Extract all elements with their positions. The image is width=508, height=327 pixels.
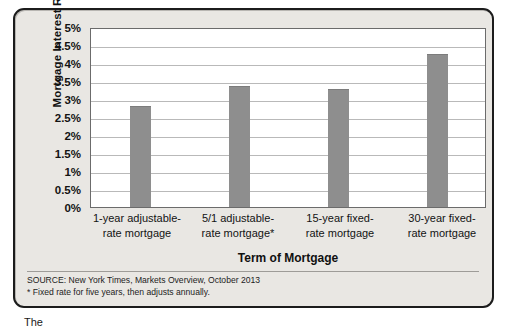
- y-tick-label: 2%: [64, 130, 81, 142]
- x-tick-label: 15-year fixed- rate mortgage: [286, 211, 394, 240]
- x-tick-label: 1-year adjustable- rate mortgage: [83, 211, 191, 240]
- figure-frame: Mortgage Interest Rate 5% 4.5% 4% 3.5% 3…: [13, 8, 494, 308]
- x-tick-label-line1: 30-year fixed-: [388, 211, 496, 226]
- x-axis-tick-labels: 1-year adjustable- rate mortgage 5/1 adj…: [90, 211, 486, 251]
- source-divider: [27, 271, 479, 272]
- y-tick-label: 4.5%: [55, 40, 81, 52]
- x-tick-label: 5/1 adjustable- rate mortgage*: [184, 211, 292, 240]
- x-tick-label-line1: 5/1 adjustable-: [184, 211, 292, 226]
- bar-15-year-fixed-rate-mortgage[interactable]: [328, 89, 349, 207]
- x-axis-title: Term of Mortgage: [90, 251, 486, 265]
- bars-layer: [91, 29, 485, 207]
- x-tick-label-line1: 15-year fixed-: [286, 211, 394, 226]
- y-tick-label: 4%: [64, 58, 81, 70]
- y-tick-label: 3%: [64, 94, 81, 106]
- y-tick-label: 5%: [64, 22, 81, 34]
- y-tick-label: 2.5%: [55, 112, 81, 124]
- x-tick-label-line2: rate mortgage: [83, 226, 191, 241]
- source-line-citation: SOURCE: New York Times, Markets Overview…: [27, 275, 467, 287]
- x-tick-label: 30-year fixed- rate mortgage: [388, 211, 496, 240]
- y-tick-label: 0%: [64, 202, 81, 214]
- y-axis-tick-labels: 5% 4.5% 4% 3.5% 3% 2.5% 2% 1.5% 1% 0.5% …: [33, 28, 85, 208]
- y-tick-label: 0.5%: [55, 184, 81, 196]
- plot-area: [90, 28, 486, 208]
- bar-30-year-fixed-rate-mortgage[interactable]: [427, 54, 448, 207]
- x-tick-label-line2: rate mortgage: [286, 226, 394, 241]
- y-tick-label: 1%: [64, 166, 81, 178]
- x-tick-label-line1: 1-year adjustable-: [83, 211, 191, 226]
- bar-5-1-adjustable-rate-mortgage[interactable]: [229, 86, 250, 207]
- y-tick-label: 3.5%: [55, 76, 81, 88]
- source-block: SOURCE: New York Times, Markets Overview…: [27, 275, 467, 298]
- bar-1-year-adjustable-rate-mortgage[interactable]: [130, 106, 151, 207]
- x-tick-label-line2: rate mortgage*: [184, 226, 292, 241]
- y-tick-label: 1.5%: [55, 148, 81, 160]
- source-line-footnote: * Fixed rate for five years, then adjust…: [27, 287, 467, 299]
- x-tick-label-line2: rate mortgage: [388, 226, 496, 241]
- caption-stub: The: [24, 316, 43, 327]
